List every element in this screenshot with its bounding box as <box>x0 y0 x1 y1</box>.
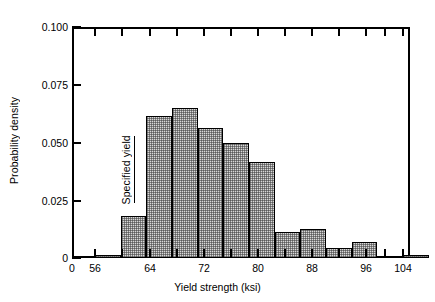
x-axis-tick-top <box>121 27 123 36</box>
x-axis-tick <box>203 249 205 258</box>
x-axis-tick-label: 64 <box>144 263 156 274</box>
x-axis-tick-label: 72 <box>198 263 210 274</box>
x-axis-tick <box>257 249 259 258</box>
x-axis-tick-top <box>311 27 313 36</box>
y-axis-tick <box>72 257 81 259</box>
x-axis-tick-label: 88 <box>306 263 318 274</box>
x-axis-tick <box>338 249 340 258</box>
x-axis-tick <box>121 249 123 258</box>
x-axis-tick-top <box>176 27 178 36</box>
y-axis-tick-label: 0 <box>62 253 68 264</box>
x-axis-tick-top <box>402 27 404 36</box>
x-axis-tick <box>284 249 286 258</box>
y-axis-tick-label: 0.075 <box>42 80 68 91</box>
x-axis-tick-top <box>203 27 205 36</box>
x-axis-tick <box>384 249 386 258</box>
x-axis-tick-label: 0 <box>69 263 75 274</box>
x-axis-tick <box>176 249 178 258</box>
x-axis-tick-top <box>257 27 259 36</box>
specified-yield-label: Specified yield <box>120 124 132 215</box>
y-axis-tick <box>72 26 81 28</box>
x-axis-tick-top <box>149 27 151 36</box>
x-axis-tick-top <box>365 27 367 36</box>
x-axis-tick-label: 80 <box>252 263 264 274</box>
specified-yield-line <box>134 136 135 203</box>
x-axis-tick-label: 104 <box>394 263 412 274</box>
x-axis-tick-top <box>94 27 96 36</box>
x-axis-tick-top <box>230 27 232 36</box>
x-axis-tick-top <box>338 27 340 36</box>
x-axis-tick <box>149 249 151 258</box>
histogram-figure: 0.1000.0750.0500.02500566472808896104 Sp… <box>0 0 435 302</box>
x-axis-tick-label: 56 <box>89 263 101 274</box>
y-axis-tick-label: 0.025 <box>42 196 68 207</box>
x-axis-tick <box>311 249 313 258</box>
x-axis-tick-top <box>284 27 286 36</box>
x-axis-tick <box>230 249 232 258</box>
y-axis-tick-label: 0.100 <box>42 22 68 33</box>
x-axis-tick-top <box>384 27 386 36</box>
y-axis-title: Probability density <box>8 50 24 230</box>
x-axis-tick <box>365 249 367 258</box>
y-axis-tick <box>72 200 81 202</box>
x-axis-tick <box>402 249 404 258</box>
x-axis-title: Yield strength (ksi) <box>0 281 435 293</box>
y-axis-tick <box>72 142 81 144</box>
y-axis-tick <box>72 84 81 86</box>
y-axis-tick-label: 0.050 <box>42 138 68 149</box>
x-axis-tick-label: 96 <box>360 263 372 274</box>
x-axis-tick <box>94 249 96 258</box>
